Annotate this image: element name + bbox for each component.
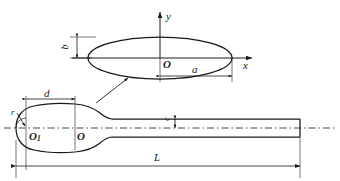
side-view-origin-label: O (77, 131, 85, 142)
view-leader-arrow (96, 78, 128, 103)
top-view-group (70, 12, 252, 82)
y-axis-label: y (166, 11, 171, 22)
total-length-label: L (154, 152, 160, 163)
nose-origin-letter: O (29, 130, 37, 142)
side-view-group (4, 96, 336, 178)
x-axis-label: x (243, 60, 248, 71)
body-upper-profile (16, 103, 300, 128)
r-leader-arrow (17, 113, 25, 126)
nose-offset-label: d (44, 88, 50, 99)
nose-radius-label: r (11, 108, 15, 117)
figure-canvas: y x O b a d r O1 O c L (0, 0, 340, 181)
body-lower-profile (16, 128, 300, 153)
nose-origin-subscript: 1 (37, 134, 41, 143)
semi-minor-axis-label: b (60, 45, 70, 50)
semi-major-axis-label: a (192, 64, 198, 75)
shaft-height-label: c (163, 117, 171, 121)
nose-origin-label: O1 (29, 131, 41, 143)
top-view-origin-label: O (163, 59, 171, 70)
figure-vector-layer (0, 0, 340, 181)
